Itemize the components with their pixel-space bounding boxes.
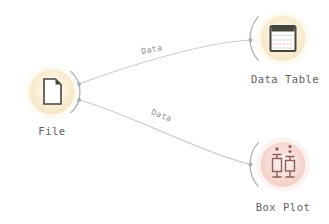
node-boxplot-label: Box Plot (256, 201, 311, 213)
anchor-dot-boxplot-input[interactable] (249, 163, 253, 167)
node-boxplot[interactable]: Box Plot (256, 138, 311, 214)
data-table-icon (271, 26, 296, 51)
link-label-data-to-table: Data (141, 43, 164, 56)
node-datatable[interactable]: Data Table (251, 12, 319, 86)
node-datatable-label: Data Table (251, 73, 319, 85)
workflow-canvas[interactable]: Data Data File (0, 0, 329, 224)
link-file-to-datatable[interactable] (79, 40, 251, 84)
node-file-label: File (38, 125, 65, 137)
link-file-to-boxplot[interactable] (79, 100, 251, 165)
node-file[interactable]: File (25, 65, 79, 137)
node-boxplot-body[interactable] (261, 142, 306, 187)
file-document-icon (44, 79, 61, 104)
link-label-data-to-boxplot: Data (150, 108, 173, 124)
anchor-dot-datatable-input[interactable] (249, 38, 253, 42)
